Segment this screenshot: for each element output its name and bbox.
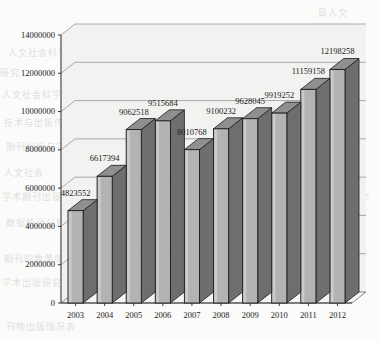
chart-page: 目人文究与学术出版人文社会科学学术期刊的研究社会科学学人文社会科学学术期刊技术与… [0,0,379,340]
y-axis-label: 8000000 [25,145,55,154]
x-axis-label: 2009 [234,311,266,320]
bar-2010 [272,102,301,303]
x-axis-label: 2008 [205,311,237,320]
bar-data-label: 9919252 [257,91,301,100]
bar-data-label: 9062518 [112,108,156,117]
bar-side-face [316,78,330,303]
bar-side-face [83,200,97,303]
bar-highlight [185,151,188,303]
x-axis-label: 2006 [147,311,179,320]
y-axis-label: 4000000 [25,222,55,231]
bar-2003 [68,200,97,303]
bar-highlight [302,90,305,302]
bar-data-label: 4823552 [54,189,98,198]
bar-side-face [170,110,184,303]
bar-data-label: 12198258 [315,47,359,56]
bar-highlight [156,122,159,302]
bar-data-label: 9515684 [141,99,185,108]
x-axis-label: 2010 [263,311,295,320]
bar-side-face [345,58,359,303]
bar-highlight [331,70,334,302]
x-axis-label: 2007 [176,311,208,320]
bar-2007 [184,139,213,303]
y-axis-label: 10000000 [21,107,55,116]
bar-side-face [141,119,155,303]
bar-side-face [287,102,301,303]
bar-highlight [127,130,130,302]
bar-highlight [273,114,276,302]
bar-2009 [243,108,272,303]
x-axis-label: 2011 [292,311,324,320]
bar-highlight [214,130,217,302]
bar-data-label: 6617394 [83,154,127,163]
bar-data-label: 9100232 [199,107,243,116]
y-axis-label: 2000000 [25,260,55,269]
bar-2005 [126,119,155,303]
bar-side-face [200,139,214,303]
x-axis-label: 2005 [118,311,150,320]
bar-side-face [229,118,243,303]
x-axis-label: 2004 [89,311,121,320]
bar-side-face [112,165,126,303]
x-axis-label: 2003 [60,311,92,320]
bar-2006 [155,110,184,303]
bar-highlight [98,177,101,302]
bar-data-label: 8010768 [170,128,214,137]
bar-side-face [258,108,272,303]
x-axis-label: 2012 [321,311,353,320]
bar-2004 [97,165,126,303]
y-axis-label: 12000000 [21,69,55,78]
bar-highlight [69,212,72,303]
bar-2012 [330,58,359,303]
y-axis-label: 6000000 [25,184,55,193]
bar-chart: 0200000040000006000000800000010000000120… [0,0,379,340]
bar-highlight [243,120,246,303]
bar-2011 [301,78,330,303]
y-axis-label: 0 [51,299,55,308]
bar-data-label: 11159158 [286,67,330,76]
y-axis-label: 14000000 [21,31,55,40]
bar-2008 [213,118,242,303]
